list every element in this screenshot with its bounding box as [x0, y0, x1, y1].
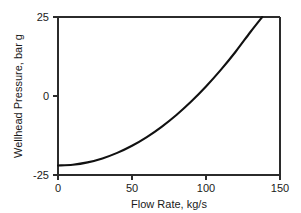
chart-canvas: 25 0 -25 0 50 100 150 Flow Rate, kg/s We…: [0, 0, 301, 213]
y-tick-label-0: 0: [43, 90, 49, 102]
y-axis-title: Wellhead Pressure, bar g: [12, 34, 24, 158]
y-tick-label-neg25: -25: [33, 169, 49, 181]
x-tick-label-0: 0: [55, 182, 61, 194]
x-axis-title: Flow Rate, kg/s: [131, 198, 207, 210]
x-tick-label-100: 100: [197, 182, 215, 194]
x-tick-label-150: 150: [271, 182, 289, 194]
x-tick-label-50: 50: [126, 182, 138, 194]
figure-background: [0, 0, 301, 213]
y-tick-label-25: 25: [37, 11, 49, 23]
chart-figure: 25 0 -25 0 50 100 150 Flow Rate, kg/s We…: [0, 0, 301, 213]
